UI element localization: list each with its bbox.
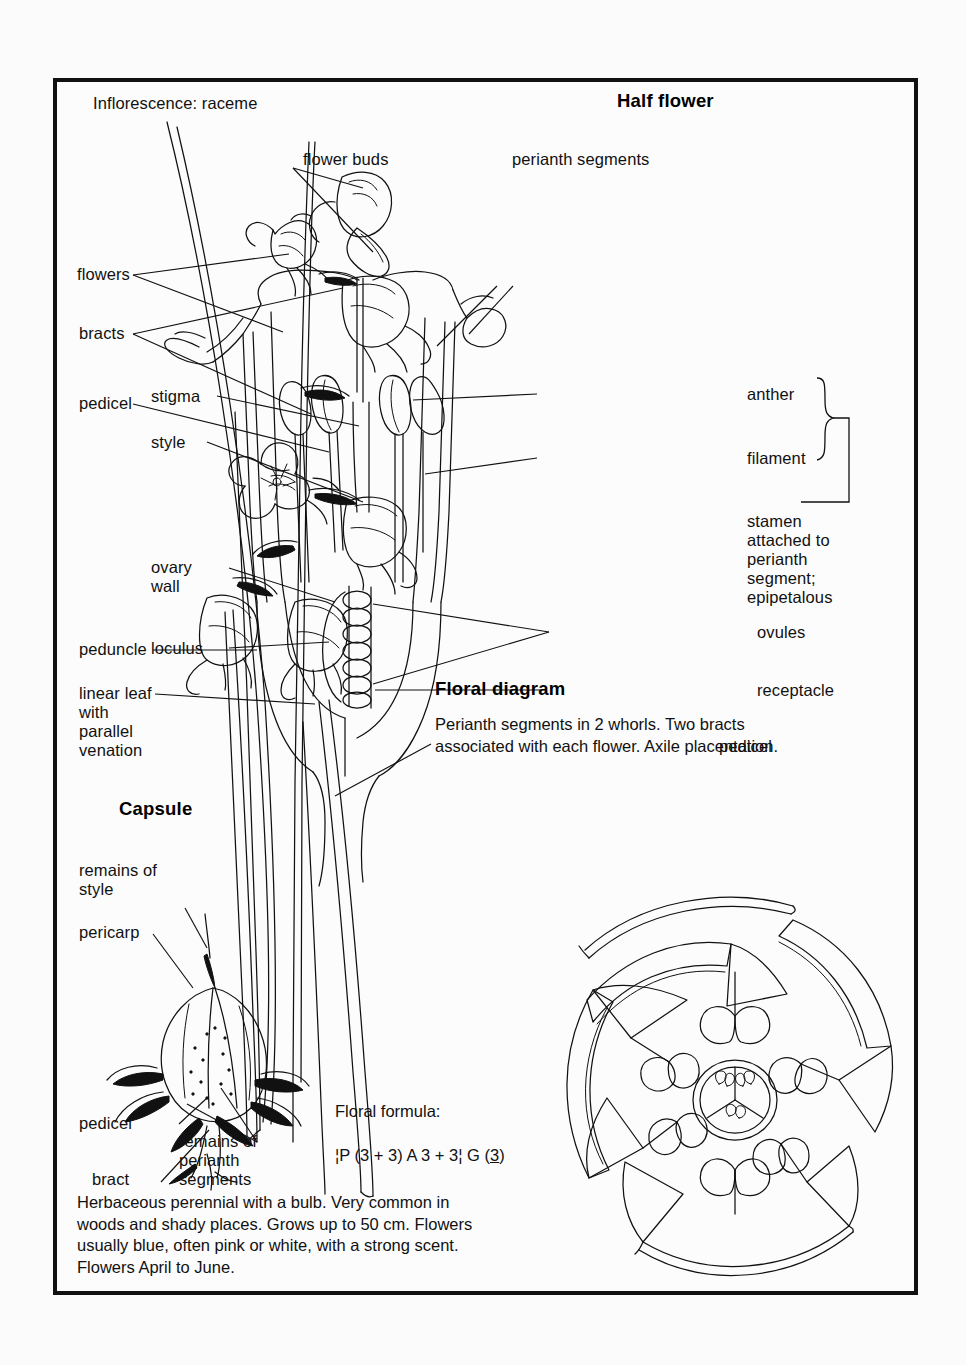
inflorescence-title: Inflorescence: raceme [93, 94, 257, 113]
label-flowers: flowers [77, 265, 130, 284]
stamen-brackets [801, 378, 849, 502]
label-anther: anther [747, 385, 794, 404]
label-remains-of-perianth: remains of perianth segments [179, 1132, 257, 1189]
label-pericarp: pericarp [79, 923, 139, 942]
floral-diagram-description: Perianth segments in 2 whorls. Two bract… [435, 714, 865, 757]
flower-bell-2 [309, 488, 417, 594]
label-flower-buds: flower buds [303, 150, 388, 169]
label-stigma: stigma [151, 387, 200, 406]
perianth-inner-whorl [587, 944, 893, 1242]
floral-formula-heading: Floral formula: [335, 1100, 505, 1122]
label-ovules: ovules [757, 623, 805, 642]
label-perianth-segments: perianth segments [512, 150, 649, 169]
label-pedicel-capsule: pedicel [79, 1114, 132, 1133]
heading-floral-diagram: Floral diagram [435, 678, 565, 700]
species-description: Herbaceous perennial with a bulb. Very c… [77, 1192, 547, 1278]
label-peduncle: peduncle [79, 640, 147, 659]
capsule-seeds [190, 1027, 232, 1105]
label-loculus: loculus [151, 639, 203, 658]
label-style: style [151, 433, 185, 452]
label-stamen-note: stamen attached to perianth segment; epi… [747, 512, 833, 607]
label-ovary-wall: ovary wall [151, 558, 192, 596]
heading-half-flower: Half flower [617, 90, 714, 112]
ovules [343, 591, 371, 708]
label-linear-leaf: linear leaf with parallel venation [79, 684, 152, 760]
label-remains-of-style: remains of style [79, 861, 157, 899]
floral-formula-prefix: ¦P (3 + 3) A 3 + 3¦ G ( [335, 1146, 490, 1164]
plate-border: Inflorescence: raceme flower buds flower… [53, 78, 918, 1295]
label-filament: filament [747, 449, 806, 468]
floral-formula-suffix: ) [499, 1146, 505, 1164]
flower-bell-1 [319, 272, 431, 372]
leader-lines [133, 168, 549, 1182]
label-bract: bract [92, 1170, 129, 1189]
heading-capsule: Capsule [119, 798, 192, 820]
floral-formula-carpels: 3 [490, 1146, 499, 1164]
label-pedicel-inflorescence: pedicel [79, 394, 132, 413]
flower-bell-4 [281, 599, 347, 699]
label-receptacle: receptacle [757, 681, 834, 700]
label-bracts: bracts [79, 324, 125, 343]
floral-formula-line: ¦P (3 + 3) A 3 + 3¦ G (3) [335, 1144, 505, 1166]
ovary-cross-section [693, 1060, 777, 1140]
floral-diagram-drawing [567, 897, 892, 1275]
